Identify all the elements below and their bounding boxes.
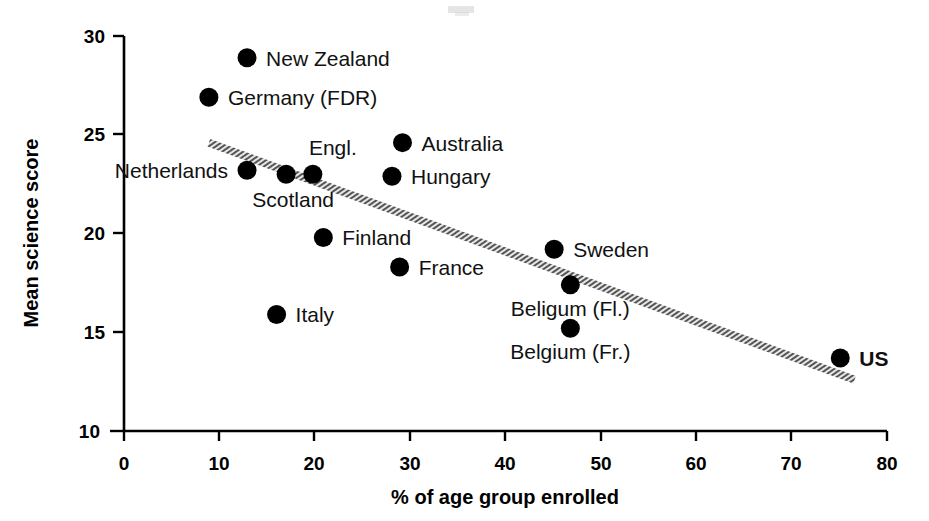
x-tick-30: 30 <box>399 453 420 474</box>
data-point-label: US <box>859 347 888 370</box>
y-tick-30: 30 <box>84 26 105 47</box>
data-point[interactable] <box>314 228 333 247</box>
data-point-label: Engl. <box>309 136 357 159</box>
y-tick-20: 20 <box>84 223 105 244</box>
data-point[interactable] <box>303 165 322 184</box>
data-point-label: Finland <box>342 226 411 249</box>
x-tick-70: 70 <box>780 453 801 474</box>
data-point-label: New Zealand <box>266 47 390 70</box>
data-point[interactable] <box>267 305 286 324</box>
data-point-label: Italy <box>296 303 335 326</box>
chart-figure: 30 25 20 15 10 Mean science score 0 10 2… <box>0 0 929 521</box>
data-point-label: Germany (FDR) <box>228 86 377 109</box>
data-point-label: Australia <box>421 132 503 155</box>
data-point-label: Beligum (Fl.) <box>511 297 630 320</box>
x-axis-label: % of age group enrolled <box>391 486 619 508</box>
y-axis-label: Mean science score <box>20 139 42 328</box>
data-point[interactable] <box>199 88 218 107</box>
y-axis-title: Mean science score <box>20 139 42 328</box>
x-axis-title: % of age group enrolled <box>391 486 619 508</box>
data-point[interactable] <box>831 348 850 367</box>
data-point-label: France <box>419 256 484 279</box>
data-point[interactable] <box>545 240 564 259</box>
data-point[interactable] <box>277 165 296 184</box>
x-tick-0: 0 <box>119 453 130 474</box>
data-point[interactable] <box>561 319 580 338</box>
data-point-label: Hungary <box>411 165 491 188</box>
data-point-label: Sweden <box>573 238 649 261</box>
x-tick-80: 80 <box>876 453 897 474</box>
scatter-plot-canvas: 30 25 20 15 10 Mean science score 0 10 2… <box>0 0 929 521</box>
y-tick-25: 25 <box>84 124 106 145</box>
y-tick-15: 15 <box>84 322 106 343</box>
x-tick-50: 50 <box>590 453 611 474</box>
x-tick-60: 60 <box>685 453 706 474</box>
data-point-label: Netherlands <box>115 159 228 182</box>
data-point-label: Belgium (Fr.) <box>510 340 630 363</box>
data-point[interactable] <box>390 258 409 277</box>
data-point[interactable] <box>238 48 257 67</box>
data-point[interactable] <box>383 167 402 186</box>
data-point[interactable] <box>561 275 580 294</box>
y-tick-10: 10 <box>79 421 100 442</box>
x-tick-20: 20 <box>303 453 324 474</box>
data-point[interactable] <box>393 133 412 152</box>
x-tick-40: 40 <box>494 453 515 474</box>
x-tick-10: 10 <box>208 453 229 474</box>
data-point[interactable] <box>238 161 257 180</box>
data-point-label: Scotland <box>252 188 334 211</box>
